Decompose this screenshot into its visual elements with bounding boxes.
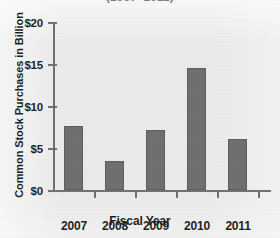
x-axis-tick [94,190,96,198]
x-axis-title: Fiscal Year [0,214,280,228]
bar-2010[interactable] [187,68,206,190]
clipped-caption-fragment: (2007–2011) [0,0,280,3]
x-axis-tick [135,190,137,198]
plot-area: $0 $5 $10 $15 $20 2007 2008 2009 2010 20… [53,23,271,191]
x-axis-tick [258,190,260,198]
y-axis-tick: $5 [48,148,57,150]
y-axis-tick-label: $20 [24,17,43,29]
bar-2008[interactable] [105,161,124,190]
bar-2011[interactable] [228,139,247,190]
bar-chart-figure: (2007–2011) Common Stock Purchases in Bi… [0,0,280,238]
y-axis-tick: $10 [48,106,57,108]
y-axis-tick-label: $5 [31,143,43,155]
bar-2007[interactable] [64,126,83,190]
bar-2009[interactable] [146,130,165,190]
y-axis-tick-label: $10 [24,101,43,113]
y-axis-tick-label: $15 [24,59,43,71]
x-axis-tick [217,190,219,198]
x-axis-line [53,190,271,192]
y-axis-tick-label: $0 [31,185,43,197]
y-axis-tick: $0 [48,190,57,192]
y-axis-tick: $20 [48,22,57,24]
y-axis-tick: $15 [48,64,57,66]
x-axis-tick [176,190,178,198]
